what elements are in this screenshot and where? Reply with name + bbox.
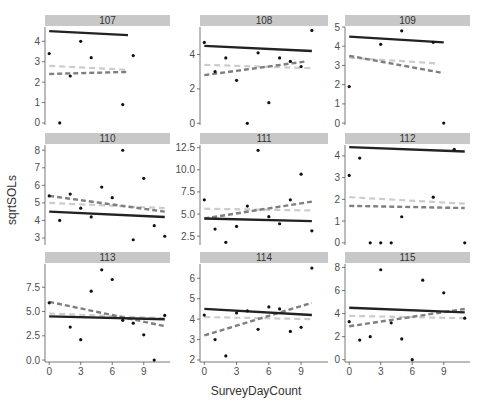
data-point [213,338,216,341]
y-tick-label: 5.0 [26,306,40,317]
panel-112: 11201234 [334,133,470,248]
data-point [432,41,435,44]
y-tick-label: 5 [34,197,40,208]
x-tick-label: 6 [266,366,272,377]
data-point [79,207,82,210]
data-point [442,291,445,294]
y-tick-label: 0.0 [26,355,40,366]
panel-114: 114234560369 [189,252,328,377]
data-point [111,278,114,281]
data-point [100,268,103,271]
data-point [121,149,124,152]
facet-strip-label: 107 [99,15,116,26]
trend-line-solid [204,218,312,221]
data-point [369,335,372,338]
data-point [348,174,351,177]
y-tick-label: 7.5 [26,282,40,293]
y-tick-label: 1 [334,98,340,109]
data-point [278,222,281,225]
data-point [300,326,303,329]
y-tick-label: 2.5 [26,330,40,341]
facet-strip-label: 111 [256,133,272,144]
x-tick-label: 0 [346,366,352,377]
data-point [142,333,145,336]
facet-strip-label: 115 [400,252,416,263]
y-tick-label: 3 [334,172,340,183]
data-point [256,328,259,331]
y-tick-label: 4 [334,150,340,161]
panel-111: 1112.55.07.510.012.5 [176,133,328,245]
y-tick-label: 5 [189,293,195,304]
data-point [379,241,382,244]
data-point [453,148,456,151]
data-point [69,193,72,196]
y-tick-label: 4 [334,41,340,52]
trend-line-dark-dashed [49,302,165,326]
y-tick-label: 3 [189,334,195,345]
data-point [90,215,93,218]
data-point [310,266,313,269]
panels-group: 107012341080241090123451103456781112.55.… [26,15,470,377]
y-axis-title: sqrtSOLs [5,175,19,225]
y-tick-label: 2 [34,77,40,88]
x-tick-label: 3 [234,366,240,377]
y-tick-label: 6 [334,285,340,296]
data-point [463,241,466,244]
x-tick-label: 0 [202,366,208,377]
y-tick-label: 1 [334,216,340,227]
data-point [300,65,303,68]
y-tick-label: 0 [334,354,340,365]
data-point [310,229,313,232]
data-point [203,313,206,316]
facet-strip-label: 110 [100,133,116,144]
y-tick-label: 7.5 [181,186,195,197]
data-point [90,56,93,59]
data-point [379,43,382,46]
y-tick-label: 2 [189,83,195,94]
y-tick-label: 6 [189,273,195,284]
panel-115: 115024680369 [334,252,470,377]
y-tick-label: 2 [189,354,195,365]
data-point [300,173,303,176]
data-point [203,41,206,44]
facet-strip-label: 112 [400,133,416,144]
y-tick-label: 4 [334,308,340,319]
data-point [400,337,403,340]
y-tick-label: 3 [334,60,340,71]
y-tick-label: 4 [189,49,195,60]
data-point [48,301,51,304]
trend-line-light-dashed [204,65,312,68]
y-tick-label: 12.5 [176,142,196,153]
data-point [400,215,403,218]
y-tick-label: 3 [34,232,40,243]
panel-110: 110345678 [34,133,170,245]
data-point [267,101,270,104]
data-point [400,29,403,32]
data-point [235,79,238,82]
y-tick-label: 0 [189,118,195,129]
trend-line-solid [204,46,312,51]
data-point [256,149,259,152]
facet-strip-label: 108 [256,15,273,26]
data-point [246,122,249,125]
data-point [48,194,51,197]
data-point [224,241,227,244]
y-tick-label: 7 [34,162,40,173]
x-axis-title: SurveyDayCount [211,384,302,398]
data-point [246,309,249,312]
y-tick-label: 4 [34,215,40,226]
data-point [278,56,281,59]
y-tick-label: 8 [334,262,340,273]
data-point [224,354,227,357]
y-tick-label: 10.0 [176,164,196,175]
y-tick-label: 0 [334,237,340,248]
y-tick-label: 0 [34,117,40,128]
x-tick-label: 3 [378,366,384,377]
data-point [267,305,270,308]
data-point [278,307,281,310]
data-point [267,215,270,218]
x-tick-label: 3 [78,366,84,377]
trend-line-dark-dashed [49,196,165,212]
data-point [142,177,145,180]
x-tick-label: 9 [141,366,147,377]
